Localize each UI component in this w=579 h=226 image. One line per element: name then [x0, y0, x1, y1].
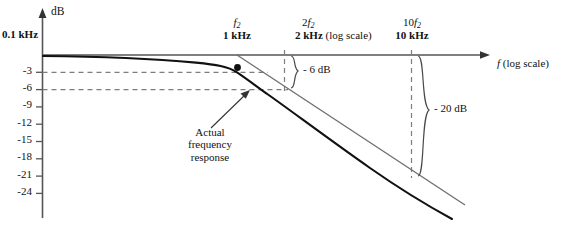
drop-6db-label: - 6 dB	[303, 64, 331, 76]
drop-20db-label: - 20 dB	[434, 103, 467, 115]
y-axis-arrowhead	[39, 8, 47, 18]
y-tick-label-minus18: -18	[0, 151, 32, 163]
y-tick-label-minus15: -15	[0, 134, 32, 146]
x-marker-10f2: 10f2 10 kHz	[371, 17, 453, 42]
y-tick-label-minus6: -6	[0, 82, 32, 94]
y-axis-ticks	[36, 72, 43, 193]
actual-response-line-3: response	[152, 151, 268, 163]
x-axis-label-rest: (log scale)	[500, 57, 549, 69]
bode-plot-figure: dB 0.1 kHz -3 -6 -9 -12 -15 -18 -21 -24 …	[0, 0, 579, 226]
brace-6db	[291, 56, 298, 88]
x-axis-start-label: 0.1 kHz	[2, 29, 38, 41]
x-marker-10f2-symbol: 10f2	[371, 17, 453, 30]
x-axis-arrowhead	[480, 51, 490, 59]
x-marker-10f2-prefix: 10	[403, 16, 414, 28]
actual-response-line-2: frequency	[152, 138, 268, 150]
y-axis-label: dB	[51, 5, 64, 17]
x-marker-10f2-value: 10 kHz	[371, 30, 453, 42]
minus-3db-point-marker	[234, 64, 241, 71]
actual-response-annotation: Actual frequency response	[152, 126, 268, 163]
brace-20db	[418, 56, 429, 176]
asymptote-line	[237, 55, 465, 205]
y-tick-label-minus9: -9	[0, 99, 32, 111]
y-tick-label-minus3: -3	[0, 65, 32, 77]
actual-response-line-1: Actual	[152, 126, 268, 138]
x-axis-label: f (log scale)	[497, 58, 549, 70]
y-tick-label-minus12: -12	[0, 117, 32, 129]
x-marker-2f2-value: 2 kHz	[295, 29, 323, 41]
y-tick-label-minus21: -21	[0, 169, 32, 181]
y-tick-label-minus24: -24	[0, 186, 32, 198]
actual-response-leader-line	[211, 94, 246, 128]
x-marker-2f2-note: (log scale)	[323, 29, 372, 41]
